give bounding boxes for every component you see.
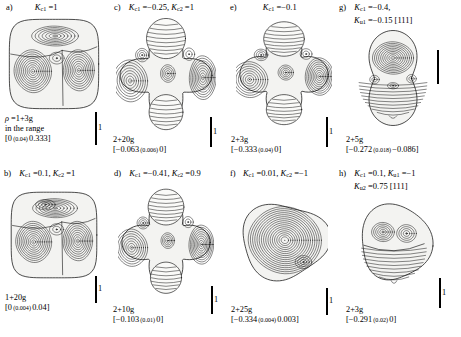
panel-e-caption-line-1: [−0.333 (0.04) 0] bbox=[231, 145, 281, 155]
panel-e-surface bbox=[236, 14, 332, 130]
panel-d-tag: d) bbox=[114, 168, 121, 178]
panel-c-caption-line-1: [−0.063 (0.006) 0] bbox=[113, 145, 166, 155]
panel-b-caption: 1+20g [0 (0.004) 0.04] bbox=[5, 293, 49, 313]
panel-a-scalebar-bar bbox=[95, 112, 97, 145]
panel-b: b) Kc1 =0.1, Kc2 =1 1+20g [0 (0.004) 0.0… bbox=[2, 168, 114, 335]
panel-b-header: b) Kc1 =0.1, Kc2 =1 bbox=[4, 168, 75, 181]
panel-h: h) Kc1 =0.1, Ku1 =−1 Ku2 =0.75 [111] 2+3… bbox=[336, 168, 461, 335]
panel-h-tag: h) bbox=[339, 168, 346, 178]
panel-d-caption: 2+10g [−0.103 (0.01) 0] bbox=[113, 305, 163, 325]
panel-b-tag: b) bbox=[4, 168, 11, 178]
panel-a-note-line-1: in the range bbox=[5, 124, 51, 134]
panel-g-scalebar bbox=[437, 50, 439, 84]
panel-b-caption-line-1: [0 (0.004) 0.04] bbox=[5, 303, 49, 313]
panel-h-params-1: Ku2 =0.75 [111] bbox=[354, 181, 408, 191]
panel-h-scalebar: 1 bbox=[439, 278, 446, 308]
panel-a: a) Kc1 =1 ρ =1+3g in the range [0 (0.04)… bbox=[2, 2, 114, 167]
panel-g-caption-line-0: 2+5g bbox=[346, 135, 418, 145]
panel-f-scalebar-bar bbox=[326, 288, 328, 315]
panel-d-params: Kc1 =−0.41, Kc2 =0.9 bbox=[129, 168, 200, 178]
panel-g-surface bbox=[352, 24, 434, 132]
panel-c-params: Kc1 =−0.25, Kc2 =1 bbox=[129, 2, 194, 12]
panel-h-scalebar-label: 1 bbox=[442, 289, 446, 297]
panel-c-scalebar-bar bbox=[210, 117, 212, 147]
panel-c-header: c) Kc1 =−0.25, Kc2 =1 bbox=[114, 2, 194, 15]
panel-e-scalebar-label: 1 bbox=[329, 128, 333, 136]
panel-c: c) Kc1 =−0.25, Kc2 =1 2+20g [−0.063 (0.0… bbox=[110, 2, 228, 167]
panel-a-tag: a) bbox=[6, 2, 13, 12]
panel-e-header: e) Kc1 =−0.1 bbox=[230, 2, 297, 15]
panel-f-params: Kc1 =0.01, Kc2 =−1 bbox=[243, 168, 308, 178]
panel-d-caption-line-1: [−0.103 (0.01) 0] bbox=[113, 315, 163, 325]
panel-h-caption-line-1: [−0.291 (0.02) 0] bbox=[346, 315, 396, 325]
panel-g-caption-line-1: [−0.272 (0.018) −0.086] bbox=[346, 145, 418, 155]
panel-c-caption: 2+20g [−0.063 (0.006) 0] bbox=[113, 135, 166, 155]
panel-b-scalebar-label: 1 bbox=[98, 285, 102, 293]
panel-e-params: Kc1 =−0.1 bbox=[263, 2, 297, 12]
panel-d-scalebar: 1 bbox=[211, 286, 218, 314]
panel-h-params-0: Kc1 =0.1, Ku1 =−1 bbox=[354, 168, 415, 178]
panel-f-caption: 2+25g [−0.334 (0.004) 0.003] bbox=[231, 305, 299, 325]
panel-f-tag: f) bbox=[230, 168, 236, 178]
panel-f-header: f) Kc1 =0.01, Kc2 =−1 bbox=[230, 168, 308, 181]
panel-f-surface bbox=[240, 182, 328, 300]
panel-e-scalebar: 1 bbox=[326, 117, 333, 147]
panel-g-scalebar-bar bbox=[437, 50, 439, 84]
panel-c-scalebar-label: 1 bbox=[213, 128, 217, 136]
panel-h-scalebar-bar bbox=[439, 278, 441, 308]
panel-g: g) Kc1 =−0.4, Ku1 =−0.15 [111] 2+5g [−0.… bbox=[336, 2, 461, 167]
panel-a-note-line-0: ρ =1+3g bbox=[5, 114, 51, 124]
panel-b-scalebar-bar bbox=[95, 276, 97, 303]
panel-g-params-1: Ku1 =−0.15 [111] bbox=[354, 15, 412, 25]
panel-h-caption-line-0: 2+3g bbox=[346, 305, 396, 315]
panel-g-caption: 2+5g [−0.272 (0.018) −0.086] bbox=[346, 135, 418, 155]
panel-e-tag: e) bbox=[230, 2, 237, 12]
panel-d: d) Kc1 =−0.41, Kc2 =0.9 2+10g [−0.103 (0… bbox=[110, 168, 228, 335]
panel-d-surface bbox=[118, 180, 214, 300]
panel-a-note-line-2: [0 (0.04) 0.333] bbox=[5, 134, 51, 144]
panel-e: e) Kc1 =−0.1 2+3g [−0.333 (0.04) 0] 1 bbox=[228, 2, 338, 167]
panel-b-surface bbox=[8, 181, 100, 289]
panel-d-scalebar-bar bbox=[211, 286, 213, 314]
panel-h-header: h) Kc1 =0.1, Ku1 =−1 Ku2 =0.75 [111] bbox=[339, 168, 415, 193]
panel-d-scalebar-label: 1 bbox=[214, 296, 218, 304]
panel-f-caption-line-1: [−0.334 (0.004) 0.003] bbox=[231, 315, 299, 325]
panel-b-scalebar: 1 bbox=[95, 276, 102, 303]
panel-b-params: Kc1 =0.1, Kc2 =1 bbox=[19, 168, 75, 178]
panel-c-caption-line-0: 2+20g bbox=[113, 135, 166, 145]
panel-c-scalebar: 1 bbox=[210, 117, 217, 147]
panel-a-surface bbox=[6, 16, 102, 112]
panel-e-caption-line-0: 2+3g bbox=[231, 135, 281, 145]
panel-d-caption-line-0: 2+10g bbox=[113, 305, 163, 315]
panel-f: f) Kc1 =0.01, Kc2 =−1 2+25g [−0.334 (0.0… bbox=[228, 168, 338, 335]
panel-c-tag: c) bbox=[114, 2, 121, 12]
panel-h-surface bbox=[354, 192, 434, 300]
panel-a-params: Kc1 =1 bbox=[35, 2, 58, 12]
panel-d-header: d) Kc1 =−0.41, Kc2 =0.9 bbox=[114, 168, 201, 181]
panel-a-scalebar-label: 1 bbox=[98, 124, 102, 132]
panel-e-caption: 2+3g [−0.333 (0.04) 0] bbox=[231, 135, 281, 155]
panel-c-surface bbox=[116, 14, 216, 132]
panel-a-note: ρ =1+3g in the range [0 (0.04) 0.333] bbox=[5, 114, 51, 145]
contour-figure: a) Kc1 =1 ρ =1+3g in the range [0 (0.04)… bbox=[0, 0, 461, 337]
panel-f-scalebar-label: 1 bbox=[329, 297, 333, 305]
panel-h-caption: 2+3g [−0.291 (0.02) 0] bbox=[346, 305, 396, 325]
panel-e-scalebar-bar bbox=[326, 117, 328, 147]
panel-b-caption-line-0: 1+20g bbox=[5, 293, 49, 303]
panel-g-tag: g) bbox=[339, 2, 346, 12]
panel-f-caption-line-0: 2+25g bbox=[231, 305, 299, 315]
panel-g-params-0: Kc1 =−0.4, bbox=[354, 2, 390, 12]
panel-a-scalebar: 1 bbox=[95, 112, 102, 145]
panel-f-scalebar: 1 bbox=[326, 288, 333, 315]
panel-a-header: a) Kc1 =1 bbox=[6, 2, 58, 15]
